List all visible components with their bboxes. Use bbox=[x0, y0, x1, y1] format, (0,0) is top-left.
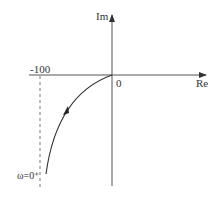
direction-arrow-icon bbox=[63, 106, 69, 115]
imag-axis-label: Im bbox=[96, 11, 108, 22]
asymptote-label: -100 bbox=[30, 64, 50, 75]
nyquist-curve bbox=[46, 75, 112, 174]
origin-label: 0 bbox=[116, 78, 122, 89]
start-frequency-label: ω=0⁺ bbox=[17, 171, 39, 181]
real-axis-label: Re bbox=[196, 78, 208, 89]
